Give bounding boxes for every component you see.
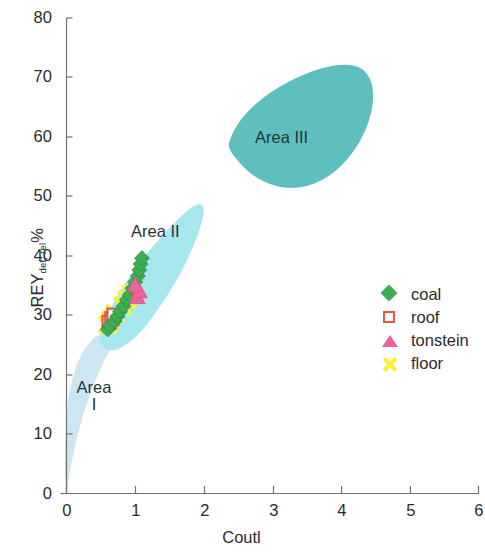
legend-label-tonstein: tonstein (411, 331, 469, 350)
x-marker-icon (379, 354, 405, 374)
area-2-label: Area II (131, 223, 180, 240)
y-axis-title-subscript: def, rel (37, 243, 48, 274)
legend-label-coal: coal (411, 285, 441, 304)
y-tick-0: 0 (0, 485, 52, 502)
x-tick-0: 0 (61, 502, 73, 519)
legend-item-coal[interactable]: coal (379, 283, 469, 306)
area-1-label-line1: Area (77, 378, 112, 396)
legend-item-floor[interactable]: floor (379, 352, 469, 375)
legend-item-roof[interactable]: roof (379, 306, 469, 329)
y-axis-title-unit: % (28, 228, 46, 243)
legend-label-floor: floor (411, 354, 443, 373)
area-regions (65, 65, 373, 493)
open-square-marker-icon (379, 308, 405, 328)
triangle-marker-icon (379, 331, 405, 351)
x-tick-5: 5 (405, 502, 417, 519)
x-tick-1: 1 (130, 502, 142, 519)
region-area-3 (229, 65, 373, 188)
legend-item-tonstein[interactable]: tonstein (379, 329, 469, 352)
y-axis-title: REYdef, rel% (28, 208, 48, 328)
area-1-label-line2: I (92, 395, 97, 413)
area-1-label: AreaI (65, 379, 123, 414)
x-tick-6: 6 (473, 502, 485, 519)
x-axis-ticks (67, 486, 479, 494)
x-tick-3: 3 (268, 502, 280, 519)
y-tick-10: 10 (0, 425, 52, 442)
legend: coal roof tonstein floor (379, 283, 469, 375)
x-tick-4: 4 (336, 502, 348, 519)
y-axis-title-main: REY (28, 273, 46, 307)
y-tick-80: 80 (0, 9, 52, 26)
axis-lines (66, 18, 479, 494)
y-tick-60: 60 (0, 128, 52, 145)
x-axis-title: Coutl (0, 528, 483, 547)
x-tick-2: 2 (199, 502, 211, 519)
y-tick-50: 50 (0, 187, 52, 204)
area-3-label: Area III (255, 129, 308, 146)
diamond-marker-icon (379, 285, 405, 305)
y-tick-70: 70 (0, 68, 52, 85)
legend-label-roof: roof (411, 308, 439, 327)
y-tick-20: 20 (0, 366, 52, 383)
